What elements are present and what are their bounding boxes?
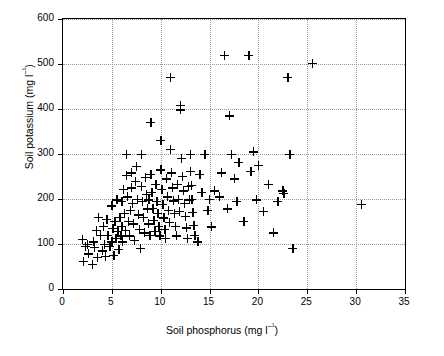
data-point xyxy=(127,168,136,177)
data-point xyxy=(145,231,154,240)
y-gridline xyxy=(63,19,405,20)
x-gridline xyxy=(258,19,259,289)
data-point xyxy=(116,231,125,240)
data-point xyxy=(158,200,167,209)
x-gridline xyxy=(307,19,308,289)
data-point xyxy=(173,180,182,189)
data-point xyxy=(234,158,243,167)
data-point xyxy=(88,260,97,269)
data-point xyxy=(239,217,248,226)
x-tick-label: 5 xyxy=(96,296,126,307)
x-gridline xyxy=(356,19,357,289)
y-tick xyxy=(58,154,63,155)
data-point xyxy=(166,73,175,82)
y-tick-label: 400 xyxy=(20,102,54,113)
data-point xyxy=(136,244,145,253)
data-point xyxy=(225,111,234,120)
data-point xyxy=(128,199,137,208)
data-point xyxy=(125,231,134,240)
data-point xyxy=(175,207,184,216)
scatter-chart: Soil potassium (mg l−¹) Soil phosphorus … xyxy=(0,0,444,356)
data-point xyxy=(113,227,122,236)
data-point xyxy=(154,222,163,231)
y-tick xyxy=(58,19,63,20)
x-tick-label: 25 xyxy=(291,296,321,307)
data-point xyxy=(166,145,175,154)
data-point xyxy=(217,168,226,177)
data-point xyxy=(124,217,133,226)
x-tick-label: 15 xyxy=(194,296,224,307)
data-point xyxy=(186,167,195,176)
data-point xyxy=(165,218,174,227)
data-point xyxy=(92,226,101,235)
data-point xyxy=(170,209,179,218)
data-point xyxy=(135,225,144,234)
data-point xyxy=(189,221,198,230)
data-point xyxy=(121,226,130,235)
data-point xyxy=(134,210,143,219)
y-tick-label: 300 xyxy=(20,147,54,158)
data-point xyxy=(151,180,160,189)
data-point xyxy=(137,182,146,191)
data-point xyxy=(150,227,159,236)
data-point xyxy=(172,231,181,240)
data-point xyxy=(142,190,151,199)
data-point xyxy=(278,186,287,195)
data-point xyxy=(169,196,178,205)
data-point xyxy=(127,183,136,192)
x-tick xyxy=(161,289,162,294)
y-tick-label: 500 xyxy=(20,57,54,68)
data-point xyxy=(230,174,239,183)
y-gridline xyxy=(63,199,405,200)
data-point xyxy=(115,213,124,222)
x-gridline xyxy=(112,19,113,289)
data-point xyxy=(178,172,187,181)
data-point xyxy=(188,208,197,217)
data-point xyxy=(180,199,189,208)
data-point xyxy=(210,186,219,195)
data-point xyxy=(179,186,188,195)
y-tick-label: 0 xyxy=(20,282,54,293)
data-point xyxy=(279,189,288,198)
data-point xyxy=(129,219,138,228)
data-point xyxy=(246,167,255,176)
data-point xyxy=(264,180,273,189)
data-point xyxy=(195,170,204,179)
data-point xyxy=(120,209,129,218)
y-gridline xyxy=(63,64,405,65)
data-point xyxy=(357,200,366,209)
y-tick xyxy=(58,199,63,200)
x-gridline xyxy=(161,19,162,289)
x-tick xyxy=(210,289,211,294)
data-point xyxy=(79,257,88,266)
x-tick-label: 30 xyxy=(340,296,370,307)
data-point xyxy=(164,206,173,215)
data-point xyxy=(146,170,155,179)
y-tick-label: 100 xyxy=(20,237,54,248)
data-point xyxy=(269,228,278,237)
data-point xyxy=(162,174,171,183)
data-point xyxy=(119,185,128,194)
data-point xyxy=(132,162,141,171)
x-tick xyxy=(356,289,357,294)
data-point xyxy=(122,171,131,180)
data-point xyxy=(161,234,170,243)
data-point xyxy=(78,235,87,244)
data-point xyxy=(177,154,186,163)
data-point xyxy=(220,51,229,60)
data-point xyxy=(99,222,108,231)
x-tick-label: 10 xyxy=(145,296,175,307)
data-point xyxy=(283,73,292,82)
x-tick xyxy=(112,289,113,294)
y-gridline xyxy=(63,109,405,110)
x-axis-label: Soil phosphorus (mg l−¹) xyxy=(0,322,444,336)
y-tick xyxy=(58,244,63,245)
data-point xyxy=(143,204,152,213)
data-point xyxy=(244,51,253,60)
y-tick xyxy=(58,109,63,110)
data-point xyxy=(144,219,153,228)
x-tick-label: 35 xyxy=(389,296,419,307)
data-point xyxy=(207,222,216,231)
data-point xyxy=(190,231,199,240)
data-point xyxy=(141,173,150,182)
